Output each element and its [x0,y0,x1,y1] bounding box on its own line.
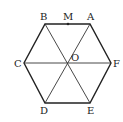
midpoint-m-dot [67,23,70,26]
label-O: O [71,52,79,63]
label-D: D [40,105,48,116]
hexagon-diagram: B M A C O F D E [0,0,123,122]
label-B: B [40,11,47,22]
label-A: A [86,11,95,22]
label-C: C [14,58,22,69]
label-M: M [63,11,73,22]
label-F: F [113,58,120,69]
label-E: E [87,105,94,116]
